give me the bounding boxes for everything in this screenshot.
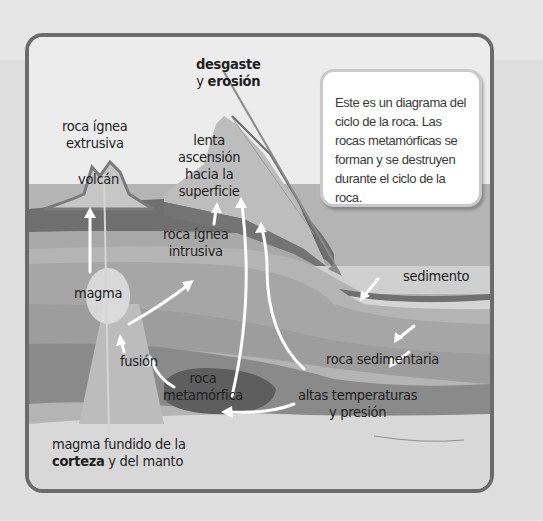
label-sedimento: sedimento: [403, 268, 469, 285]
label-fusion: fusión: [120, 353, 158, 370]
label-roca-metamorfica: roca metamórfica: [163, 370, 243, 404]
label-magma: magma: [74, 285, 122, 302]
info-callout: Este es un diagrama del ciclo de la roca…: [320, 69, 482, 207]
label-altas-temperaturas: altas temperaturas y presión: [298, 387, 417, 421]
label-desgaste: desgaste y erosión: [196, 56, 261, 90]
label-roca-ignea-extrusiva: roca ígnea extrusiva: [62, 118, 128, 152]
label-roca-sedimentaria: roca sedimentaria: [326, 351, 439, 368]
label-desgaste-line1: desgaste: [196, 56, 261, 73]
rock-cycle-figure: desgaste y erosión roca ígnea extrusiva …: [0, 0, 543, 521]
label-lenta-ascension: lenta ascensión hacia la superficie: [178, 132, 240, 200]
label-magma-fundido: magma fundido de la corteza y del manto: [52, 436, 186, 470]
callout-text: Este es un diagrama del ciclo de la roca…: [335, 93, 469, 207]
label-roca-ignea-intrusiva: roca ígnea intrusiva: [163, 226, 229, 260]
label-desgaste-line2: y erosión: [196, 73, 261, 90]
label-volcan: volcán: [78, 171, 119, 188]
